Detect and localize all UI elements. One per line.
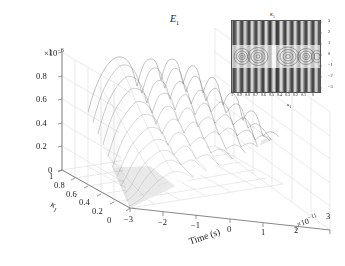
x-axis-multiplier-exp: −11 (307, 212, 318, 221)
inset-title: κ1 (270, 11, 275, 19)
x-tick-label: −3 (124, 215, 133, 224)
inset-y-tick-label: 3 (328, 19, 330, 23)
x-tick-label: −1 (191, 221, 200, 230)
inset-x-tick-label: 0.4 (277, 93, 282, 97)
inset-x-tick-label: 0.8 (245, 93, 250, 97)
x-tick-label: 0 (227, 225, 231, 234)
inset-heatmap (231, 20, 321, 93)
z-tick-label: 0.6 (66, 190, 77, 199)
inset-x-tick-label: 0.3 (285, 93, 290, 97)
inset-y-tick-label: −2 (328, 74, 333, 78)
z-tick-label: 0.2 (92, 207, 103, 216)
inset-x-tick-label: 0.1 (301, 93, 306, 97)
inset-x-tick-label: 1 (231, 93, 233, 97)
y-tick-label: 0.4 (36, 119, 47, 128)
plot-title: E1 (170, 14, 179, 26)
inset-y-tick-label: −3 (328, 85, 333, 89)
y-tick-label: 0.2 (36, 142, 47, 151)
inset-x-tick-label: 0 (312, 93, 314, 97)
x-tick-label: −2 (158, 218, 167, 227)
y-tick-label: 1 (48, 48, 52, 57)
y-axis-multiplier-exp: −6 (57, 47, 63, 53)
x-tick-label: 1 (261, 228, 265, 237)
inset-x-tick-label: 0.6 (261, 93, 266, 97)
inset-y-tick-label: 1 (328, 41, 330, 45)
inset-x-tick-label: 0.5 (269, 93, 274, 97)
z-tick-label: 0.4 (79, 198, 90, 207)
inset-x-tick-label: 0.2 (293, 93, 298, 97)
z-tick-label: 1 (49, 172, 53, 181)
z-tick-label: 0.8 (54, 181, 65, 190)
inset-heatmap-canvas (232, 21, 320, 92)
z-tick-label: 0 (107, 216, 111, 225)
y-tick-label: 0.6 (36, 95, 47, 104)
y-axis-multiplier: ×10−6 (44, 47, 64, 57)
inset-y-tick-label: 0 (328, 52, 330, 56)
inset-center-divider (272, 45, 276, 68)
inset-x-tick-label: 0.9 (237, 93, 242, 97)
inset-x-axis-label: κ1 (287, 102, 291, 110)
inset-y-tick-label: −1 (328, 63, 333, 67)
axis-y-ticks (58, 52, 62, 171)
x-tick-label: 3 (326, 212, 330, 221)
figure-root: E1 ×10−6 Optical power (W) 1 0.8 0.6 0.4… (0, 0, 345, 266)
inset-y-tick-label: 2 (328, 30, 330, 34)
plot-title-sub: 1 (176, 20, 179, 26)
inset-x-axis-label-sub: 1 (289, 105, 291, 109)
inset-x-tick-label: 0.7 (253, 93, 258, 97)
inset-title-sub: 1 (273, 14, 275, 19)
y-tick-label: 0.8 (36, 72, 47, 81)
